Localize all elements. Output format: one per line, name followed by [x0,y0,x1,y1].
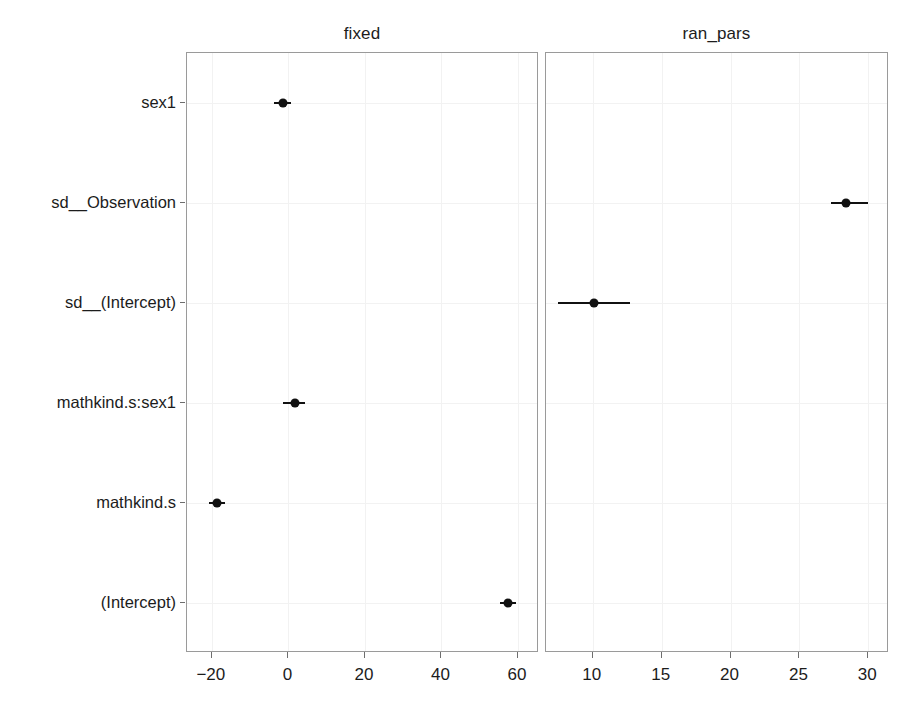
data-point [842,199,851,208]
gridline-horizontal [187,603,537,604]
x-axis-tick-label: 10 [582,665,601,685]
facet-strip-fixed: fixed [186,24,538,44]
x-axis-tick-mark [661,652,662,658]
gridline-horizontal [546,603,887,604]
gridline-vertical [441,53,442,651]
panel-ran-pars [545,52,888,652]
gridline-vertical [212,53,213,651]
y-axis-tick-label: mathkind.s:sex1 [0,393,176,412]
x-axis-tick-label: 0 [283,665,292,685]
x-axis-tick-label: 40 [431,665,450,685]
y-axis-tick-mark [180,302,185,303]
x-axis-tick-label: −20 [196,665,225,685]
y-axis-tick-mark [180,602,185,603]
x-axis-tick-mark [440,652,441,658]
gridline-vertical [288,53,289,651]
gridline-horizontal [187,403,537,404]
x-axis-tick-mark [798,652,799,658]
x-axis-tick-mark [592,652,593,658]
facet-strip-ran-pars: ran_pars [545,24,888,44]
gridline-vertical [593,53,594,651]
x-axis-tick-mark [517,652,518,658]
gridline-horizontal [546,403,887,404]
x-axis-tick-label: 15 [651,665,670,685]
y-axis-tick-mark [180,502,185,503]
data-point [212,499,221,508]
x-axis-tick-label: 60 [507,665,526,685]
gridline-horizontal [546,503,887,504]
x-axis-tick-mark [364,652,365,658]
y-axis-tick-mark [180,402,185,403]
gridline-vertical [731,53,732,651]
gridline-horizontal [187,203,537,204]
x-axis-tick-mark [730,652,731,658]
y-axis-tick-mark [180,102,185,103]
gridline-horizontal [187,103,537,104]
x-axis-tick-mark [287,652,288,658]
x-axis-tick-label: 20 [354,665,373,685]
y-axis-tick-label: (Intercept) [0,593,176,612]
gridline-horizontal [187,303,537,304]
y-axis-tick-label: sex1 [0,93,176,112]
x-axis-tick-mark [867,652,868,658]
x-axis-tick-label: 25 [789,665,808,685]
y-axis-tick-label: sd__(Intercept) [0,293,176,312]
data-point [590,299,599,308]
x-axis-tick-label: 20 [720,665,739,685]
gridline-vertical [868,53,869,651]
gridline-vertical [799,53,800,651]
panel-fixed [186,52,538,652]
gridline-vertical [365,53,366,651]
gridline-vertical [662,53,663,651]
data-point [504,599,513,608]
coefficient-plot: fixed ran_pars sex1sd__Observationsd__(I… [0,0,919,713]
y-axis-tick-label: mathkind.s [0,493,176,512]
data-point [290,399,299,408]
gridline-horizontal [187,503,537,504]
x-axis-tick-label: 30 [858,665,877,685]
x-axis-tick-mark [211,652,212,658]
y-axis-tick-label: sd__Observation [0,193,176,212]
y-axis-tick-mark [180,202,185,203]
data-point [278,99,287,108]
gridline-vertical [518,53,519,651]
gridline-horizontal [546,103,887,104]
